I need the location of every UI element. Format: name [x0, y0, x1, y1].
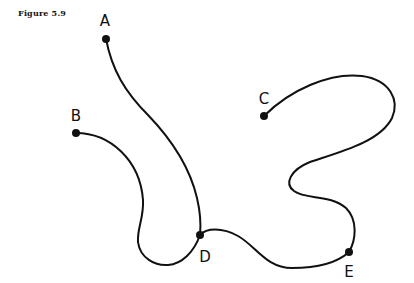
node-dot-d — [196, 231, 204, 239]
curve-c-to-e — [264, 75, 395, 252]
curve-d-to-e — [200, 230, 349, 269]
node-label-a: A — [100, 12, 111, 30]
curve-diagram: A B C D E — [0, 0, 414, 283]
node-label-e: E — [344, 263, 353, 281]
curve-a-to-d — [106, 39, 201, 235]
node-label-c: C — [259, 90, 269, 108]
node-label-b: B — [71, 107, 81, 125]
node-dot-b — [72, 129, 80, 137]
node-dot-c — [260, 112, 268, 120]
node-dot-e — [345, 248, 353, 256]
curve-b-to-d — [76, 133, 200, 265]
node-dot-a — [102, 35, 110, 43]
node-label-d: D — [199, 248, 211, 266]
